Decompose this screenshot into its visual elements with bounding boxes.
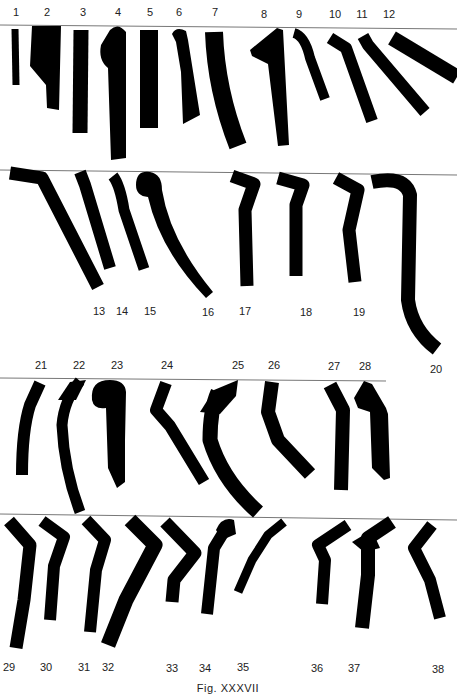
stroke-number-label: 37 [348, 662, 360, 674]
stroke-8 [250, 28, 289, 146]
stroke-number-label: 35 [237, 661, 249, 673]
stroke-number-label: 10 [329, 8, 341, 20]
stroke-number-label: 2 [44, 6, 50, 18]
stroke-26 [268, 382, 310, 474]
stroke-31 [86, 520, 105, 632]
stroke-36 [318, 525, 348, 604]
stroke-number-label: 28 [359, 360, 371, 372]
stroke-2 [30, 26, 61, 110]
stroke-number-label: 20 [430, 363, 442, 375]
stroke-number-label: 11 [356, 8, 367, 20]
stroke-4 [100, 26, 126, 160]
stroke-number-label: 1 [13, 6, 19, 18]
stroke-number-label: 5 [147, 6, 153, 18]
stroke-number-label: 33 [166, 662, 178, 674]
stroke-37 [352, 522, 392, 628]
stroke-34 [207, 519, 236, 614]
stroke-number-label: 9 [296, 8, 302, 20]
stroke-23 [92, 380, 126, 488]
stroke-7 [214, 32, 238, 146]
baseline-row-3 [0, 378, 386, 381]
stroke-number-label: 13 [93, 305, 105, 317]
stroke-number-label: 21 [35, 359, 47, 371]
stroke-33 [165, 522, 195, 602]
stroke-number-label: 36 [311, 662, 323, 674]
stroke-number-label: 27 [328, 360, 340, 372]
stroke-1 [15, 29, 16, 85]
stroke-12 [392, 38, 457, 77]
stroke-number-label: 6 [176, 6, 182, 18]
stroke-number-label: 26 [268, 359, 280, 371]
stroke-number-label: 15 [144, 305, 156, 317]
stroke-18 [278, 178, 303, 276]
stroke-number-label: 23 [111, 359, 123, 371]
stroke-number-label: 16 [202, 306, 214, 318]
stroke-17 [232, 176, 254, 286]
stroke-number-label: 8 [261, 8, 267, 20]
stroke-20 [372, 180, 437, 349]
stroke-number-label: 29 [3, 661, 15, 673]
stroke-16 [136, 172, 213, 298]
stroke-30 [42, 521, 64, 620]
figure-caption: Fig. XXXVII [197, 682, 259, 694]
stroke-28 [354, 381, 390, 480]
stroke-35 [238, 522, 284, 592]
stroke-number-label: 38 [432, 663, 444, 675]
stroke-figure [0, 0, 457, 698]
baseline-row-1 [0, 25, 457, 29]
stroke-number-label: 24 [161, 359, 173, 371]
stroke-number-label: 4 [115, 6, 121, 18]
stroke-number-label: 30 [40, 661, 52, 673]
stroke-number-label: 14 [116, 305, 128, 317]
stroke-number-label: 31 [78, 661, 90, 673]
stroke-number-label: 12 [383, 8, 395, 20]
stroke-19 [336, 178, 358, 282]
stroke-6 [172, 29, 200, 124]
stroke-number-label: 17 [239, 305, 251, 317]
stroke-24 [156, 383, 204, 482]
stroke-number-label: 25 [232, 359, 244, 371]
stroke-22 [58, 380, 86, 512]
stroke-29 [9, 521, 30, 648]
stroke-number-label: 18 [300, 306, 312, 318]
stroke-25 [200, 380, 258, 512]
stroke-27 [330, 385, 343, 490]
stroke-3 [80, 30, 81, 133]
stroke-38 [414, 525, 440, 618]
stroke-32 [108, 520, 155, 645]
stroke-number-label: 3 [80, 6, 86, 18]
stroke-number-label: 7 [212, 6, 218, 18]
stroke-number-label: 34 [199, 662, 211, 674]
stroke-number-label: 22 [73, 359, 85, 371]
stroke-number-label: 19 [353, 306, 365, 318]
stroke-9 [294, 33, 325, 99]
stroke-21 [22, 383, 40, 475]
stroke-number-label: 32 [102, 661, 114, 673]
